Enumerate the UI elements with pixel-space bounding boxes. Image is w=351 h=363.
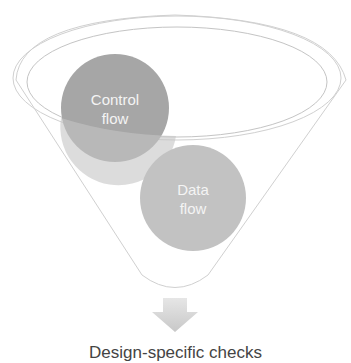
output-label: Design-specific checks [0, 343, 351, 363]
control-flow-label: Control flow [70, 90, 160, 128]
control-flow-line1: Control [70, 90, 160, 109]
control-flow-line2: flow [70, 109, 160, 128]
down-arrow-icon [152, 298, 198, 332]
data-flow-line1: Data [148, 180, 238, 199]
data-flow-label: Data flow [148, 180, 238, 218]
data-flow-line2: flow [148, 199, 238, 218]
